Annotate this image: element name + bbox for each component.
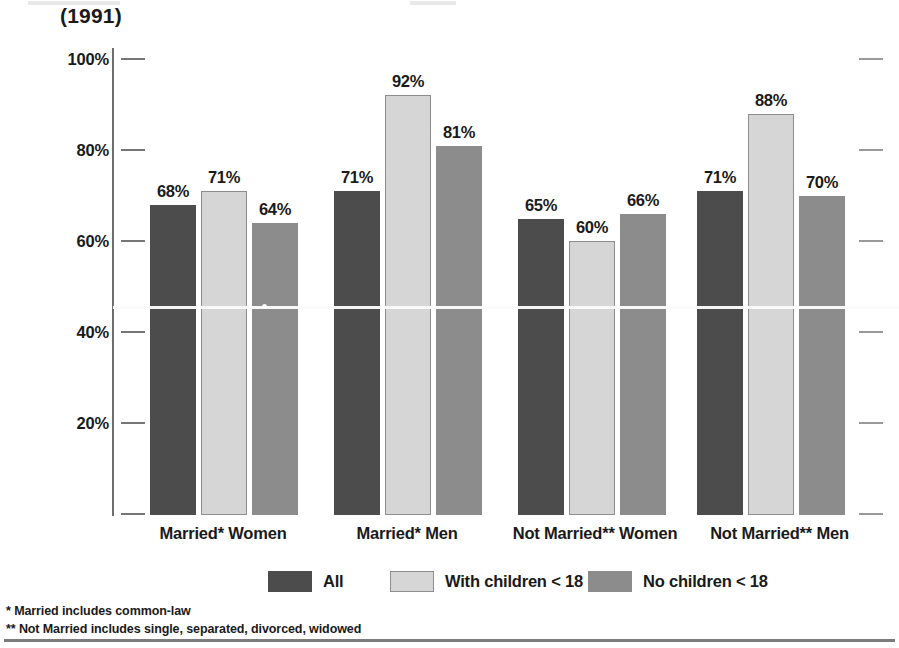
bar-wrap-with: 71% [201,191,247,515]
footnote-not-married: ** Not Married includes single, separate… [6,620,606,638]
bar-with-children[interactable] [569,241,615,515]
bar-wrap-all: 65% [518,219,564,515]
chart-legend: All With children < 18 No children < 18 [0,568,899,598]
bar-wrap-no: 81% [436,146,482,515]
bar-wrap-with: 88% [748,114,794,515]
scan-fold-speck [262,304,267,309]
bar-all[interactable] [334,191,380,515]
bottom-divider [4,639,895,642]
legend-item-no-children[interactable]: No children < 18 [588,568,768,594]
bar-value-label: 66% [610,191,676,210]
legend-label-with-children: With children < 18 [445,572,583,591]
bar-wrap-no: 70% [799,196,845,515]
scan-fold-line [113,306,899,309]
bar-no-children[interactable] [799,196,845,515]
bar-groups: 68% 71% 64% 71% 92% 81% [0,40,899,520]
scan-crop-strip [0,0,899,6]
x-axis-label-not-married-men: Not Married** Men [672,524,887,543]
bar-wrap-all: 71% [697,191,743,515]
bar-value-label: 81% [426,123,492,142]
bar-all[interactable] [150,205,196,515]
x-axis-label-married-men: Married* Men [312,524,502,543]
x-axis-category-labels: Married* Women Married* Men Not Married*… [0,524,899,550]
legend-swatch-with-children [390,571,434,592]
page-title: (1991) [60,2,122,30]
bar-with-children[interactable] [748,114,794,515]
bar-value-label: 64% [242,200,308,219]
bar-wrap-all: 68% [150,205,196,515]
bar-wrap-with: 60% [569,241,615,515]
bar-wrap-all: 71% [334,191,380,515]
bar-value-label: 60% [559,218,625,237]
bar-all[interactable] [518,219,564,515]
bar-no-children[interactable] [252,223,298,515]
bar-wrap-with: 92% [385,95,431,515]
bar-value-label: 71% [191,168,257,187]
legend-swatch-no-children [588,571,632,592]
legend-item-all[interactable]: All [268,568,343,594]
legend-label-all: All [323,572,343,591]
bar-with-children[interactable] [201,191,247,515]
footnote-married: * Married includes common-law [6,602,606,620]
bar-value-label: 88% [738,91,804,110]
bar-with-children[interactable] [385,95,431,515]
bar-wrap-no: 66% [620,214,666,515]
bar-value-label: 65% [508,196,574,215]
bar-no-children[interactable] [620,214,666,515]
bar-value-label: 70% [789,173,855,192]
legend-item-with-children[interactable]: With children < 18 [390,568,583,594]
bar-value-label: 71% [324,168,390,187]
bar-value-label: 92% [375,72,441,91]
bar-all[interactable] [697,191,743,515]
scan-smudge-center [410,1,456,5]
chart-plot-area: 100% 80% 60% 40% 20% 68% 71% [0,40,899,520]
bar-value-label: 71% [687,168,753,187]
legend-swatch-all [268,571,312,592]
bar-no-children[interactable] [436,146,482,515]
footnotes: * Married includes common-law ** Not Mar… [6,602,606,638]
x-axis-label-married-women: Married* Women [128,524,318,543]
legend-label-no-children: No children < 18 [643,572,768,591]
bar-wrap-no: 64% [252,223,298,515]
